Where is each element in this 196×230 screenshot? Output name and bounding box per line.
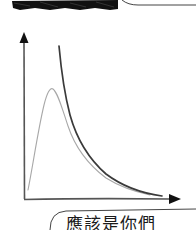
y-axis (20, 32, 29, 199)
top-speech-bubble (122, 0, 196, 5)
y-axis-arrow-icon (20, 32, 29, 43)
sketch-chart (0, 0, 196, 230)
scribble-block (12, 0, 118, 10)
speech-bubble-text: 應該是你們 (66, 214, 156, 230)
gray-peak-curve (28, 89, 150, 195)
x-axis-arrow-icon (169, 194, 181, 204)
dark-decay-curve (59, 46, 162, 196)
